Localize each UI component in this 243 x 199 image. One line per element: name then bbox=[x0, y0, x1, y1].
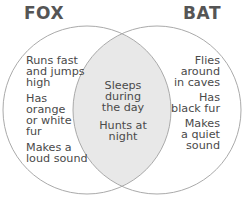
shared-trait: Hunts at night bbox=[93, 120, 153, 142]
trait-line: in caves bbox=[171, 77, 220, 88]
trait-line: loud sound bbox=[26, 153, 88, 164]
bat-trait: Has black fur bbox=[171, 92, 220, 114]
shared-traits: Sleeps during the day Hunts at night bbox=[93, 80, 153, 149]
trait-line: night bbox=[93, 131, 153, 142]
shared-trait: Sleeps during the day bbox=[93, 80, 153, 113]
fox-title: FOX bbox=[24, 3, 64, 23]
bat-trait: Makes a quiet sound bbox=[171, 118, 220, 151]
fox-trait: Makes a loud sound bbox=[26, 142, 88, 164]
trait-line: sound bbox=[171, 140, 220, 151]
fox-trait: Runs fast and jumps high bbox=[26, 55, 88, 88]
trait-line: high bbox=[26, 77, 88, 88]
bat-traits: Flies around in caves Has black fur Make… bbox=[171, 55, 220, 155]
trait-line: the day bbox=[93, 102, 153, 113]
bat-title: BAT bbox=[183, 3, 221, 23]
bat-trait: Flies around in caves bbox=[171, 55, 220, 88]
fox-trait: Has orange or white fur bbox=[26, 93, 88, 137]
fox-traits: Runs fast and jumps high Has orange or w… bbox=[26, 55, 88, 169]
trait-line: fur bbox=[26, 126, 88, 137]
trait-line: black fur bbox=[171, 103, 220, 114]
